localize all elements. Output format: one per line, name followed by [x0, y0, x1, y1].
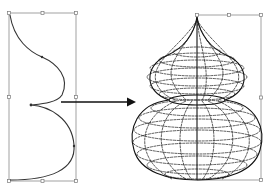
diagram-canvas — [0, 0, 268, 194]
frame-handle[interactable] — [260, 96, 263, 99]
frame-handle[interactable] — [8, 96, 11, 99]
revolved-wireframe — [132, 17, 262, 180]
frame-handle[interactable] — [260, 179, 263, 182]
curve-node[interactable] — [73, 145, 75, 147]
revolve-arrow-icon — [61, 98, 136, 107]
frame-handle[interactable] — [196, 14, 199, 17]
profile-curve[interactable] — [10, 15, 74, 180]
frame-handle[interactable] — [260, 14, 263, 17]
frame-handle[interactable] — [228, 14, 231, 17]
frame-handle[interactable] — [41, 180, 44, 183]
frame-handle[interactable] — [8, 12, 11, 15]
curve-node[interactable] — [41, 56, 43, 58]
curve-node[interactable] — [30, 104, 33, 107]
frame-handle[interactable] — [75, 96, 78, 99]
frame-handle[interactable] — [75, 12, 78, 15]
frame-handle[interactable] — [41, 12, 44, 15]
frame-handle[interactable] — [75, 180, 78, 183]
